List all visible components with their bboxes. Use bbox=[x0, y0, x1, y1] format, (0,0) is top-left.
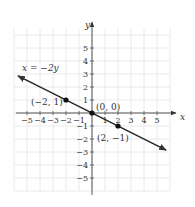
y-tick-label: −5 bbox=[76, 174, 88, 183]
y-tick-label: −1 bbox=[76, 122, 88, 131]
x-tick-label: 5 bbox=[154, 116, 159, 125]
x-axis-label: x bbox=[180, 112, 185, 122]
x-tick-label: −3 bbox=[47, 116, 59, 125]
y-tick-label: −4 bbox=[76, 161, 88, 170]
point-label-neg2-1: (−2, 1) bbox=[31, 97, 63, 107]
equation-label: x = −2y bbox=[22, 63, 60, 73]
data-point bbox=[115, 123, 120, 128]
data-point bbox=[63, 97, 68, 102]
point-label-2-neg1: (2, −1) bbox=[97, 133, 129, 143]
y-tick-label: 1 bbox=[83, 96, 88, 105]
coordinate-plane: −5−4−3−2−112345−5−4−3−2−112345 x y x = −… bbox=[0, 0, 195, 207]
data-point bbox=[89, 110, 94, 115]
y-tick-label: −2 bbox=[76, 135, 88, 144]
y-tick-label: 4 bbox=[83, 57, 88, 66]
x-tick-label: 4 bbox=[141, 116, 146, 125]
y-tick-label: 2 bbox=[83, 83, 88, 92]
x-tick-label: −4 bbox=[34, 116, 46, 125]
y-tick-label: −3 bbox=[76, 148, 88, 157]
y-axis-label: y bbox=[84, 20, 91, 30]
point-label-origin: (0, 0) bbox=[96, 102, 120, 112]
y-tick-label: 5 bbox=[83, 44, 88, 53]
x-tick-label: −2 bbox=[60, 116, 72, 125]
x-tick-label: −5 bbox=[21, 116, 33, 125]
x-tick-label: 3 bbox=[128, 116, 133, 125]
y-tick-label: 3 bbox=[83, 70, 88, 79]
